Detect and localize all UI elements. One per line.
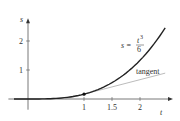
tangent-point [82, 93, 85, 96]
tangent-label: tangent [136, 67, 160, 76]
curve-label-denominator: 6 [137, 45, 141, 54]
y-tick-label: 1 [19, 66, 23, 75]
y-tick-label: 2 [19, 37, 23, 46]
y-axis-arrow-icon [26, 18, 30, 23]
x-axis-arrow-icon [168, 97, 173, 101]
y-axis-label: s [20, 15, 23, 24]
x-axis-label: t [160, 108, 163, 117]
curve-label-exponent: 3 [140, 34, 143, 40]
curve-label-lhs: s = [121, 41, 132, 50]
plot-area: 11.5212 s t s = t 3 6 tangent [0, 0, 180, 121]
x-tick-label: 1.5 [107, 103, 117, 112]
x-tick-label: 1 [82, 103, 86, 112]
x-tick-label: 2 [138, 103, 142, 112]
